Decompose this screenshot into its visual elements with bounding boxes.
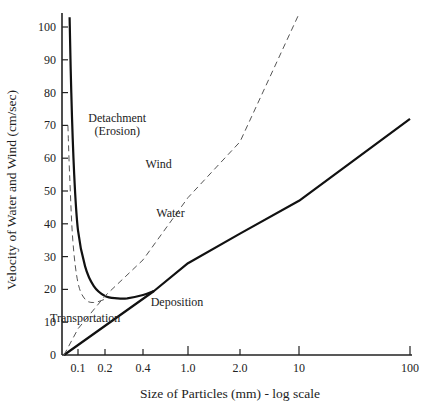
y-tick-label: 100 xyxy=(38,20,56,34)
annotation-detachment: Detachment xyxy=(88,111,147,125)
annotation-wind: Wind xyxy=(146,157,172,171)
annotation-erosion: (Erosion) xyxy=(95,124,140,138)
y-tick-label: 60 xyxy=(44,151,56,165)
y-tick-label: 30 xyxy=(44,250,56,264)
chart: 01020304050607080901000.10.20.41.02.0101… xyxy=(0,0,433,412)
y-tick-label: 90 xyxy=(44,53,56,67)
x-tick-label: 100 xyxy=(401,361,419,375)
x-tick-label: 0.4 xyxy=(136,361,151,375)
y-tick-label: 40 xyxy=(44,217,56,231)
x-tick-label: 1.0 xyxy=(181,361,196,375)
y-tick-label: 20 xyxy=(44,282,56,296)
y-tick-label: 50 xyxy=(44,184,56,198)
annotation-deposition: Deposition xyxy=(151,295,204,309)
y-axis-title: Velocity of Water and Wind (cm/sec) xyxy=(4,90,19,290)
annotation-transportation: Transportation xyxy=(50,311,120,325)
x-tick-label: 10 xyxy=(293,361,305,375)
y-tick-label: 70 xyxy=(44,118,56,132)
x-tick-label: 0.1 xyxy=(71,361,86,375)
x-axis-title: Size of Particles (mm) - log scale xyxy=(140,386,320,401)
annotation-water: Water xyxy=(156,206,184,220)
x-tick-label: 0.2 xyxy=(98,361,113,375)
series-group xyxy=(64,14,410,355)
y-tick-label: 0 xyxy=(50,348,56,362)
series-line-water-detachment-curve xyxy=(70,17,154,298)
x-tick-label: 2.0 xyxy=(233,361,248,375)
y-tick-label: 80 xyxy=(44,86,56,100)
